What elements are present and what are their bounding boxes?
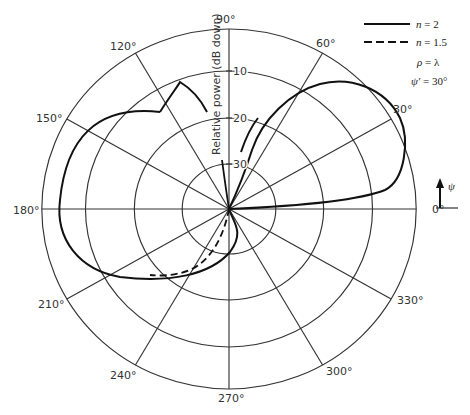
pattern-curve-center [222,160,229,209]
psi-arrow: ψ [436,178,458,208]
angle-300: 300° [326,365,353,378]
tick-30: 30 [233,158,247,171]
polar-diagram: 0° 30° 60° 90° 120° 150° 180° 210° 240° … [0,0,470,415]
tick-10: 10 [233,65,247,78]
angle-120: 120° [110,40,137,53]
tick-20: 20 [233,112,247,125]
angle-0: 0° [432,203,445,216]
angle-30: 30° [393,103,413,116]
angle-270: 270° [218,392,245,405]
legend: n = 2 n = 1.5 ρ = λ ψ′ = 30° [364,18,447,87]
pattern-curve-n2-hook [160,82,207,112]
angle-210: 210° [38,298,65,311]
angle-180: 180° [13,204,40,217]
legend-psi: ψ′ = 30° [411,75,447,87]
angle-240: 240° [110,369,137,382]
angle-150: 150° [36,112,63,125]
legend-dashed-label: n = 1.5 [416,36,447,48]
radial-axis-label: Relative power (dB down) [210,13,223,155]
legend-solid-label: n = 2 [416,18,439,30]
angle-330: 330° [397,294,424,307]
angle-60: 60° [316,37,336,50]
pattern-curve-n1.5 [150,209,229,275]
legend-rho: ρ = λ [416,56,440,68]
psi-arrow-label: ψ [448,180,455,192]
